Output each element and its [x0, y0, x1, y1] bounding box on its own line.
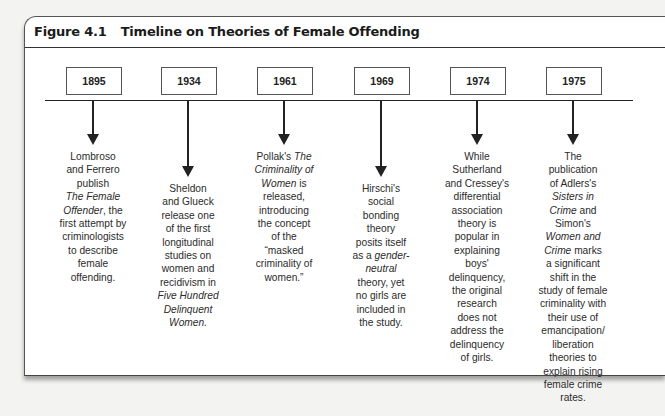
text-segment: of girls. [461, 352, 494, 363]
event-text-line: rates. [525, 391, 621, 404]
text-segment: recidivism in [160, 277, 216, 288]
text-segment: publish [77, 178, 109, 189]
text-segment: the original [452, 285, 502, 296]
event-text-line: differential [429, 190, 525, 203]
event-text-line: Women and [525, 230, 621, 243]
event-text-line: The Female [45, 190, 141, 203]
text-segment: popular in [455, 231, 500, 242]
text-segment: and [577, 205, 597, 216]
figure-title-text: Timeline on Theories of Female Offending [121, 24, 420, 39]
event-text-line: of the [236, 230, 332, 243]
italic-title-text: Delinquent [164, 304, 213, 315]
figure-title: Figure 4.1Timeline on Theories of Female… [34, 24, 420, 39]
event-text-line: of the first [140, 222, 236, 235]
text-segment: Sheldon [169, 183, 206, 194]
event-text-line: Sutherland [429, 163, 525, 176]
event-text-line: Lombroso [45, 150, 141, 163]
text-segment: does not [457, 312, 496, 323]
text-segment: Sutherland [452, 164, 501, 175]
text-segment: their use of [548, 312, 598, 323]
text-segment: The [564, 151, 582, 162]
text-segment: posits itself [356, 237, 406, 248]
event-text-line: Delinquent [140, 303, 236, 316]
event-text-line: and Glueck [140, 195, 236, 208]
italic-title-text: Five Hundred [157, 290, 218, 301]
event-text-line: no girls are [333, 289, 429, 302]
text-segment: study of female [538, 285, 607, 296]
event-text-line: recidivism in [140, 276, 236, 289]
event-description-1895: Lombrosoand FerreropublishThe FemaleOffe… [45, 150, 141, 284]
event-text-line: to describe [45, 244, 141, 257]
event-text-line: Five Hundred [140, 289, 236, 302]
text-segment: Hirschi's [362, 183, 400, 194]
event-description-1969: Hirschi'ssocialbondingtheoryposits itsel… [333, 182, 429, 329]
event-description-1961: Pollak's TheCriminality ofWomen isreleas… [236, 150, 332, 284]
figure-title-band: Figure 4.1Timeline on Theories of Female… [25, 17, 665, 48]
event-text-line: Hirschi's [333, 182, 429, 195]
event-text-line: While [429, 150, 525, 163]
event-text-line: neutral [333, 262, 429, 275]
text-segment: marks [571, 245, 602, 256]
year-box-1974: 1974 [450, 67, 506, 95]
text-segment: of Adlers's [550, 178, 597, 189]
text-segment: “masked [264, 245, 303, 256]
text-segment: emancipation/ [541, 325, 604, 336]
down-arrow-icon [278, 101, 290, 146]
text-segment: theories to [549, 352, 597, 363]
down-arrow-icon [567, 101, 579, 146]
text-segment: and Cressey's [445, 178, 509, 189]
text-segment: boys' [465, 258, 488, 269]
text-segment: criminality of [256, 258, 313, 269]
text-segment: female crime [544, 379, 602, 390]
text-segment: Pollak's [256, 151, 294, 162]
event-text-line: studies on [140, 249, 236, 262]
event-text-line: criminality of [236, 257, 332, 270]
text-segment: delinquency, [449, 272, 505, 283]
text-segment: no girls are [356, 290, 406, 301]
italic-title-text: Criminality of [255, 164, 314, 175]
italic-title-text: Women [261, 178, 296, 189]
event-text-line: explain rising [525, 365, 621, 378]
italic-title-text: Women and [546, 231, 601, 242]
figure-number: Figure 4.1 [34, 24, 107, 39]
timeline-axis [45, 100, 633, 101]
event-text-line: Crime and [525, 204, 621, 217]
event-text-line: address the [429, 324, 525, 337]
event-text-line: bonding [333, 209, 429, 222]
text-segment: longitudinal [162, 237, 214, 248]
event-text-line: posits itself [333, 236, 429, 249]
text-segment: criminologists [62, 231, 124, 242]
text-segment: released, [263, 191, 305, 202]
event-text-line: offending. [45, 271, 141, 284]
text-segment: and Ferrero [66, 164, 119, 175]
event-text-line: publish [45, 177, 141, 190]
event-text-line: as a gender- [333, 249, 429, 262]
event-text-line: Pollak's The [236, 150, 332, 163]
year-box-1934: 1934 [161, 67, 217, 95]
text-segment: women and [162, 263, 215, 274]
text-segment: theory [367, 223, 395, 234]
event-text-line: association [429, 204, 525, 217]
event-text-line: criminologists [45, 230, 141, 243]
event-text-line: Simon's [525, 217, 621, 230]
event-text-line: and Cressey's [429, 177, 525, 190]
event-text-line: included in [333, 303, 429, 316]
event-text-line: publication [525, 163, 621, 176]
event-text-line: The [525, 150, 621, 163]
down-arrow-icon [87, 101, 99, 146]
text-segment: publication [549, 164, 598, 175]
event-text-line: women and [140, 262, 236, 275]
text-segment: of the [271, 231, 297, 242]
text-segment: shift in the [550, 272, 596, 283]
event-text-line: the concept [236, 217, 332, 230]
text-segment: female [78, 258, 109, 269]
event-text-line: and Ferrero [45, 163, 141, 176]
event-text-line: popular in [429, 230, 525, 243]
text-segment: bonding [363, 210, 399, 221]
down-arrow-icon [471, 101, 483, 146]
event-text-line: female [45, 257, 141, 270]
text-segment: criminality with [540, 298, 606, 309]
text-segment: studies on [165, 250, 211, 261]
italic-title-text: Offender [63, 205, 103, 216]
event-text-line: Sheldon [140, 182, 236, 195]
